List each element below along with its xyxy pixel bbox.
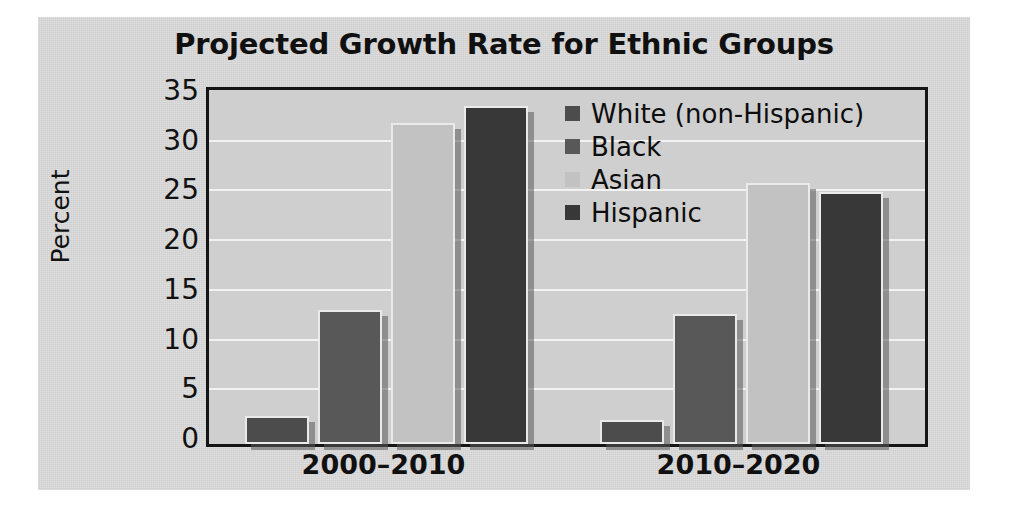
bar-20102020-white-non-hispanic: [600, 420, 664, 444]
chart-title: Projected Growth Rate for Ethnic Groups: [38, 27, 970, 61]
bar-body: [318, 310, 382, 444]
bar-20102020-black: [673, 314, 737, 444]
bar-20002010-hispanic: [464, 106, 528, 444]
x-tick-1: 2010–2020: [561, 449, 916, 480]
legend-item-asian[interactable]: Asian: [565, 164, 864, 195]
bar-body: [600, 420, 664, 444]
bar-20002010-black: [318, 310, 382, 444]
bar-body: [245, 416, 309, 444]
bar-body: [819, 192, 883, 444]
y-tick-5: 5: [141, 372, 199, 405]
x-tick-0: 2000–2010: [206, 449, 561, 480]
legend-item-white-non-hispanic[interactable]: White (non-Hispanic): [565, 98, 864, 129]
gridline-20: [209, 239, 925, 241]
plot-area: White (non-Hispanic)BlackAsianHispanic: [206, 87, 928, 447]
y-tick-30: 30: [141, 123, 199, 156]
legend-label: Black: [591, 132, 661, 162]
chart-figure: Projected Growth Rate for Ethnic Groups …: [38, 17, 970, 490]
gridline-5: [209, 388, 925, 390]
bar-20102020-hispanic: [819, 192, 883, 444]
y-tick-10: 10: [141, 322, 199, 355]
y-tick-0: 0: [141, 422, 199, 455]
bar-20002010-asian: [391, 123, 455, 444]
bar-20002010-white-non-hispanic: [245, 416, 309, 444]
gridline-15: [209, 289, 925, 291]
legend-swatch-icon: [565, 106, 580, 121]
y-tick-25: 25: [141, 173, 199, 206]
bar-body: [391, 123, 455, 444]
legend-label: Hispanic: [591, 198, 702, 228]
y-axis-label: Percent: [46, 117, 75, 317]
chart-legend: White (non-Hispanic)BlackAsianHispanic: [565, 98, 864, 230]
y-tick-20: 20: [141, 223, 199, 256]
legend-swatch-icon: [565, 139, 580, 154]
legend-label: Asian: [591, 165, 662, 195]
bar-body: [464, 106, 528, 444]
legend-item-hispanic[interactable]: Hispanic: [565, 197, 864, 228]
bar-body: [673, 314, 737, 444]
gridline-10: [209, 339, 925, 341]
legend-swatch-icon: [565, 205, 580, 220]
legend-item-black[interactable]: Black: [565, 131, 864, 162]
y-tick-35: 35: [141, 74, 199, 107]
y-tick-15: 15: [141, 272, 199, 305]
legend-label: White (non-Hispanic): [591, 99, 864, 129]
legend-swatch-icon: [565, 172, 580, 187]
